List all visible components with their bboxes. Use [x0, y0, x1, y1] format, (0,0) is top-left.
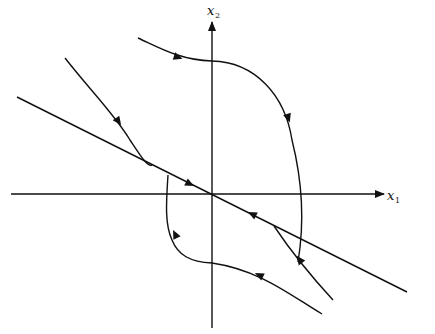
arrow-icon	[184, 178, 196, 189]
trajectory-top	[138, 38, 302, 262]
svg-text:x: x	[387, 188, 395, 203]
svg-text:1: 1	[395, 196, 400, 205]
phase-portrait: x 1 x 2	[0, 0, 435, 334]
trajectory-bottom	[167, 175, 322, 314]
arrow-icon	[246, 208, 258, 219]
trajectory-lower-right	[274, 226, 333, 300]
x1-axis-label: x 1	[387, 188, 400, 205]
x2-axis-label: x 2	[207, 3, 220, 20]
svg-text:2: 2	[215, 11, 220, 20]
svg-text:x: x	[207, 3, 215, 18]
trajectory-upper-left	[65, 58, 152, 165]
